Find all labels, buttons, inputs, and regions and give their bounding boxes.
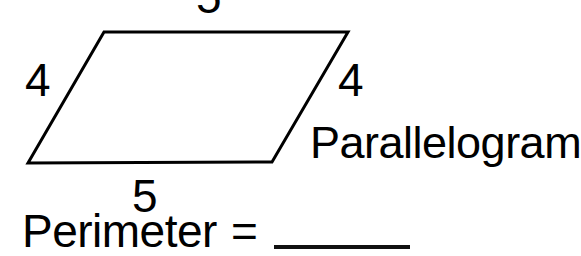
parallelogram-outline bbox=[28, 32, 348, 163]
side-length-top-label: 5 bbox=[196, 0, 222, 20]
perimeter-question: Perimeter = bbox=[22, 208, 410, 254]
side-length-right-label: 4 bbox=[338, 57, 364, 103]
equals-sign: = bbox=[231, 208, 258, 254]
side-length-left-label: 4 bbox=[25, 57, 51, 103]
shape-name-label: Parallelogram bbox=[310, 120, 581, 165]
perimeter-answer-blank[interactable] bbox=[274, 245, 410, 249]
perimeter-prompt-label: Perimeter bbox=[22, 208, 217, 254]
